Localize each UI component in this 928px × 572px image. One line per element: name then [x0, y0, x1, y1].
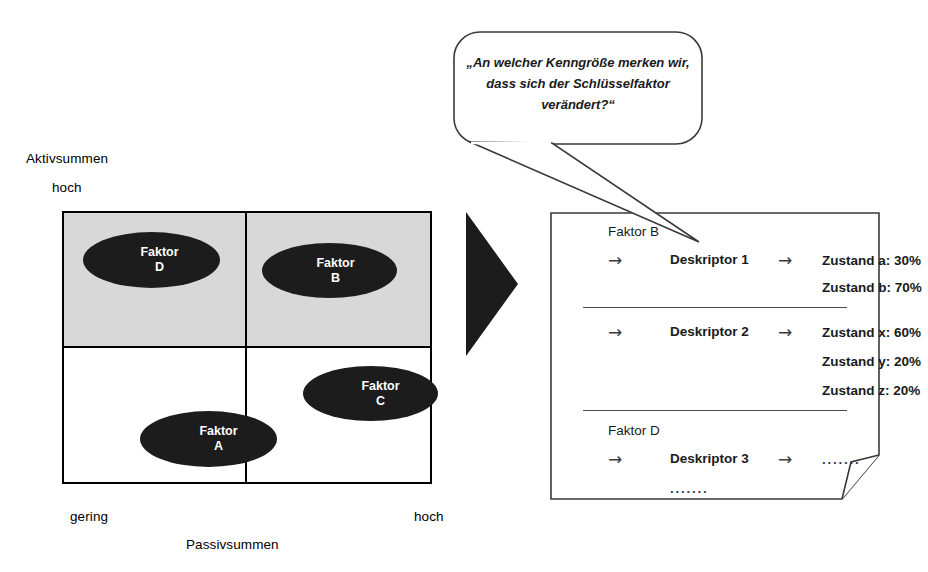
x-axis-low-label: gering [70, 509, 108, 524]
matrix-marker-faktor-c: Faktor C [303, 366, 438, 421]
arrow-right-icon: → [608, 252, 670, 269]
descriptor-document: Faktor B → Deskriptor 1 → Zustand a: 30%… [550, 212, 880, 500]
y-axis-title: Aktivsummen [26, 151, 108, 166]
matrix-marker-faktor-a: Faktor A [140, 411, 277, 467]
state-placeholder-dots: ······· [822, 455, 860, 470]
descriptor-name: Deskriptor 2 [670, 324, 778, 339]
state-value: Zustand b: 70% [822, 280, 922, 295]
marker-label-name: Faktor [361, 379, 399, 393]
marker-label-id: C [361, 394, 399, 409]
diagram-canvas: Aktivsummen hoch Faktor D Faktor B Fakto… [0, 0, 928, 572]
matrix-marker-faktor-b: Faktor B [262, 243, 397, 298]
arrow-right-icon: → [778, 252, 822, 269]
speech-bubble-text: „An welcher Kenngröße merken wir, dass s… [466, 52, 690, 115]
portfolio-matrix-figure: Aktivsummen hoch Faktor D Faktor B Fakto… [0, 0, 470, 572]
factor-heading-d: Faktor D [608, 423, 660, 438]
trailing-placeholder-dots: ······· [670, 484, 708, 499]
document-divider [583, 410, 847, 411]
state-value: Zustand x: 60% [822, 325, 921, 340]
marker-label-id: D [140, 260, 178, 275]
y-axis-high-label: hoch [52, 180, 82, 195]
descriptor-row-3: → Deskriptor 3 → [608, 451, 822, 468]
marker-label-name: Faktor [199, 424, 237, 438]
descriptor-name: Deskriptor 1 [670, 252, 778, 267]
document-content: Faktor B → Deskriptor 1 → Zustand a: 30%… [550, 212, 880, 500]
speech-bubble-callout: „An welcher Kenngröße merken wir, dass s… [452, 30, 708, 245]
x-axis-high-label: hoch [414, 509, 444, 524]
marker-label-id: B [316, 271, 354, 286]
arrow-right-icon: → [608, 324, 670, 341]
marker-label-id: A [199, 439, 237, 454]
state-value: Zustand y: 20% [822, 354, 921, 369]
document-divider [583, 307, 847, 308]
descriptor-row-2: → Deskriptor 2 → [608, 324, 822, 341]
matrix-marker-faktor-d: Faktor D [83, 232, 220, 288]
state-value: Zustand z: 20% [822, 383, 920, 398]
arrow-right-icon: → [608, 451, 670, 468]
arrow-right-icon: → [778, 324, 822, 341]
descriptor-row-1: → Deskriptor 1 → [608, 252, 822, 269]
state-value: Zustand a: 30% [822, 253, 921, 268]
descriptor-name: Deskriptor 3 [670, 451, 778, 466]
marker-label-name: Faktor [316, 256, 354, 270]
x-axis-title: Passivsummen [186, 537, 279, 552]
arrow-right-icon: → [778, 451, 822, 468]
marker-label-name: Faktor [140, 245, 178, 259]
